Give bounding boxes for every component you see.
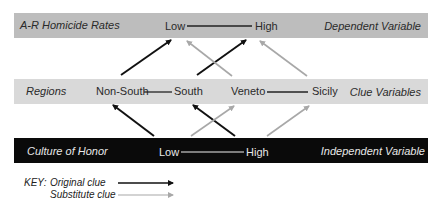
causal-arrows	[0, 0, 445, 205]
arrow-veneto-to-low	[187, 41, 232, 76]
key-title: KEY:	[24, 177, 46, 188]
key-substitute-label: Substitute clue	[50, 189, 116, 200]
arrow-high-to-sicily	[267, 106, 309, 136]
key-original-label: Original clue	[50, 177, 106, 188]
arrow-south-to-high	[197, 40, 246, 75]
arrow-sicily-to-high	[260, 41, 307, 76]
arrow-low-to-nonsouth	[113, 105, 154, 136]
arrow-nonsouth-to-low	[121, 40, 171, 75]
